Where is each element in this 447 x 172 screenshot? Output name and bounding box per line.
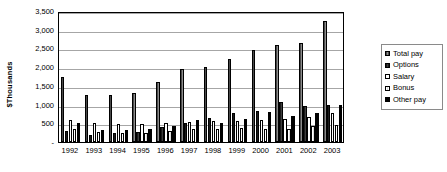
bar: [148, 129, 151, 142]
legend-item: Other pay: [385, 94, 439, 106]
y-axis-tick-labels: -5001,0001,5002,0002,5003,0003,500: [16, 0, 56, 172]
legend-swatch-icon: [385, 86, 390, 91]
bar: [339, 105, 342, 142]
bar: [61, 77, 64, 142]
legend-label: Bonus: [393, 84, 414, 92]
y-axis-title-text: $Thousands: [5, 61, 14, 107]
bar: [89, 135, 92, 142]
bar: [228, 59, 231, 142]
legend-swatch-icon: [385, 63, 390, 68]
bar: [236, 121, 239, 142]
legend-label: Other pay: [393, 96, 426, 104]
bar-group: [107, 13, 131, 142]
x-axis-tick-label: 2000: [249, 146, 273, 155]
bar: [303, 106, 306, 142]
x-axis-tick-label: 2003: [320, 146, 344, 155]
bar: [260, 120, 263, 142]
legend-item: Salary: [385, 71, 439, 83]
y-axis-tick-label: 3,000: [16, 27, 54, 34]
bar: [136, 132, 139, 142]
bar: [244, 119, 247, 142]
bar: [307, 117, 310, 142]
bar: [204, 67, 207, 142]
legend-label: Options: [393, 61, 419, 69]
bar: [268, 112, 271, 142]
bar-chart: $Thousands -5001,0001,5002,0002,5003,000…: [0, 0, 447, 172]
bar-group: [131, 13, 155, 142]
bar: [323, 21, 326, 142]
y-axis-title: $Thousands: [2, 42, 16, 126]
legend-item: Total pay: [385, 48, 439, 60]
bar: [113, 133, 116, 142]
bar: [256, 111, 259, 142]
bar: [164, 123, 167, 142]
x-axis-tick-label: 1994: [106, 146, 130, 155]
bar: [121, 133, 124, 142]
bar: [85, 95, 88, 142]
y-axis-tick-label: -: [16, 139, 54, 146]
y-axis-tick-label: 2,000: [16, 64, 54, 71]
bar: [283, 119, 286, 142]
y-axis-tick-label: 1,500: [16, 83, 54, 90]
bar-group: [154, 13, 178, 142]
bar-group: [59, 13, 83, 142]
bar: [117, 124, 120, 142]
bar: [168, 131, 171, 142]
bar: [184, 123, 187, 142]
bar-group: [321, 13, 345, 142]
x-axis-tick-label: 1992: [58, 146, 82, 155]
bar: [331, 113, 334, 142]
bar: [264, 129, 267, 142]
x-axis-tick-label: 2002: [296, 146, 320, 155]
bar: [172, 126, 175, 142]
bar: [252, 50, 255, 142]
x-axis-tick-label: 1993: [82, 146, 106, 155]
bar: [132, 93, 135, 142]
chart-legend: Total payOptionsSalaryBonusOther pay: [381, 44, 443, 110]
bar-series-container: [59, 13, 343, 142]
bar: [311, 126, 314, 142]
bar: [109, 95, 112, 142]
bar: [125, 130, 128, 142]
bar: [180, 69, 183, 142]
legend-label: Salary: [393, 73, 414, 81]
bar: [315, 113, 318, 142]
bar: [279, 102, 282, 142]
x-axis-tick-label: 1998: [201, 146, 225, 155]
bar-group: [250, 13, 274, 142]
x-axis-tick-label: 1995: [130, 146, 154, 155]
bar: [156, 82, 159, 142]
legend-item: Bonus: [385, 83, 439, 95]
bar: [160, 127, 163, 142]
plot-area: [58, 12, 344, 143]
bar: [291, 116, 294, 142]
bar-group: [226, 13, 250, 142]
bar: [220, 123, 223, 142]
bar-group: [202, 13, 226, 142]
bar: [240, 128, 243, 142]
x-axis-tick-label: 2001: [273, 146, 297, 155]
bar-group: [274, 13, 298, 142]
bar: [77, 123, 80, 142]
legend-swatch-icon: [385, 97, 390, 102]
y-axis-tick-label: 500: [16, 120, 54, 127]
bar: [212, 121, 215, 142]
bar: [275, 45, 278, 142]
bar: [208, 118, 211, 142]
y-axis-tick-label: 1,000: [16, 102, 54, 109]
bar: [69, 120, 72, 142]
bar-group: [83, 13, 107, 142]
x-axis-tick-labels: 1992199319941995199619971998199920002001…: [58, 146, 344, 166]
bar: [73, 129, 76, 142]
bar: [144, 133, 147, 142]
bar: [287, 129, 290, 142]
y-axis-tick-label: 2,500: [16, 45, 54, 52]
bar: [93, 123, 96, 142]
bar: [299, 43, 302, 142]
bar: [188, 122, 191, 142]
x-axis-tick-label: 1997: [177, 146, 201, 155]
bar: [97, 132, 100, 142]
bar: [196, 120, 199, 142]
bar: [327, 105, 330, 142]
legend-swatch-icon: [385, 74, 390, 79]
